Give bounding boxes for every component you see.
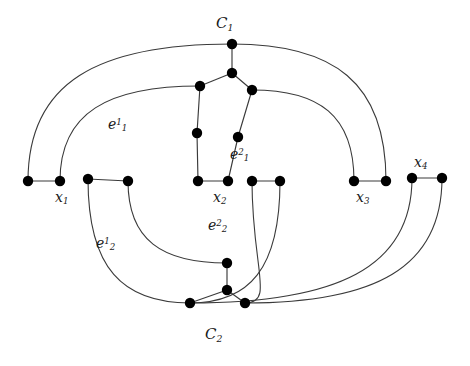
label-x2: x2 bbox=[213, 190, 226, 206]
label-e11-sub: 1 bbox=[122, 123, 128, 133]
label-e11: e11 bbox=[108, 117, 127, 133]
label-x3-base: x bbox=[356, 189, 364, 205]
label-x2-sub: 2 bbox=[221, 196, 227, 206]
graph-vertex bbox=[247, 85, 257, 95]
graph-vertex bbox=[240, 298, 250, 308]
graph-vertex bbox=[55, 176, 65, 186]
graph-vertex bbox=[275, 176, 285, 186]
graph-vertex bbox=[381, 176, 391, 186]
label-c1-base: C bbox=[216, 14, 227, 32]
curve-x1right-to-c1left bbox=[60, 86, 200, 181]
label-e21-sub: 2 bbox=[110, 242, 116, 252]
label-x4: x4 bbox=[414, 155, 427, 171]
graph-vertex bbox=[227, 39, 237, 49]
label-e12: e21 bbox=[230, 147, 249, 163]
curve-c1right-to-x3left bbox=[252, 90, 354, 181]
graph-vertex bbox=[83, 174, 93, 184]
curve-x4right-to-c2right bbox=[245, 178, 442, 303]
graph-vertex bbox=[233, 132, 243, 142]
label-x1-base: x bbox=[55, 189, 63, 205]
graph-figure: C1 C2 x1 x2 x3 x4 e11 e21 e12 e22 bbox=[0, 0, 470, 366]
label-x4-sub: 4 bbox=[422, 161, 428, 171]
graph-vertex bbox=[222, 285, 232, 295]
label-x1-sub: 1 bbox=[63, 196, 69, 206]
label-x4-base: x bbox=[414, 154, 422, 170]
label-x3: x3 bbox=[356, 190, 369, 206]
graph-edge bbox=[197, 86, 200, 133]
label-e21: e12 bbox=[96, 236, 115, 252]
label-c1-sub: 1 bbox=[227, 22, 233, 33]
label-c1: C1 bbox=[216, 16, 233, 32]
label-c2-base: C bbox=[205, 325, 216, 343]
graph-vertex bbox=[192, 128, 202, 138]
label-c2-sub: 2 bbox=[216, 333, 222, 344]
graph-edge bbox=[190, 290, 227, 303]
graph-edge bbox=[238, 90, 252, 137]
label-c2: C2 bbox=[205, 327, 222, 343]
curve-x1left-to-c1apex bbox=[28, 44, 232, 181]
label-e12-sub: 1 bbox=[244, 153, 250, 163]
curve-pair4right-to-c2left bbox=[190, 181, 280, 303]
graph-vertex bbox=[223, 176, 233, 186]
label-x1: x1 bbox=[55, 190, 68, 206]
graph-vertex bbox=[23, 176, 33, 186]
graph-vertex bbox=[123, 176, 133, 186]
graph-vertex bbox=[407, 173, 417, 183]
graph-vertex bbox=[349, 176, 359, 186]
graph-vertex bbox=[437, 173, 447, 183]
label-e22: e22 bbox=[208, 218, 227, 234]
label-x3-sub: 3 bbox=[364, 196, 370, 206]
label-x2-base: x bbox=[213, 189, 221, 205]
graph-vertex bbox=[227, 68, 237, 78]
graph-canvas bbox=[0, 0, 470, 366]
graph-vertex bbox=[185, 298, 195, 308]
graph-edge bbox=[197, 133, 198, 181]
graph-vertex bbox=[195, 81, 205, 91]
graph-vertex bbox=[222, 258, 232, 268]
graph-vertex bbox=[247, 176, 257, 186]
graph-vertex bbox=[193, 176, 203, 186]
graph-edge bbox=[88, 179, 128, 181]
label-e22-sub: 2 bbox=[222, 224, 228, 234]
curve-c1apex-to-x3right bbox=[232, 44, 386, 181]
